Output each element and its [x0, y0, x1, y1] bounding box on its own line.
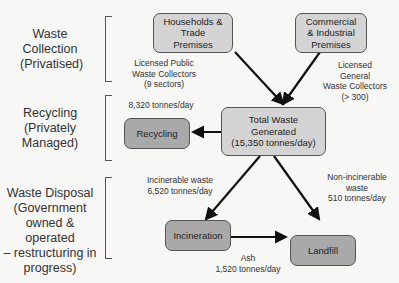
node-incineration: Incineration — [165, 220, 231, 251]
node-households: Households & Trade Premises — [153, 13, 233, 53]
label-ash: Ash 1,520 tonnes/day — [205, 253, 291, 274]
node-commercial: Commercial & Industrial Premises — [295, 13, 367, 53]
node-recycling: Recycling — [124, 118, 190, 149]
label-recycling-flow: 8,320 tonnes/day — [116, 100, 206, 111]
label-non-incinerable: Non-incinerable waste 510 tonnes/day — [318, 172, 396, 204]
label-general-collectors: Licensed General Waste Collectors (> 300… — [312, 60, 398, 102]
label-incinerable: Incinerable waste 6,520 tonnes/day — [137, 175, 223, 196]
label-public-collectors: Licensed Public Waste Collectors (9 sect… — [123, 58, 205, 90]
node-landfill: Landfill — [290, 235, 356, 266]
node-total-waste: Total Waste Generated (15,350 tonnes/day… — [221, 107, 326, 156]
